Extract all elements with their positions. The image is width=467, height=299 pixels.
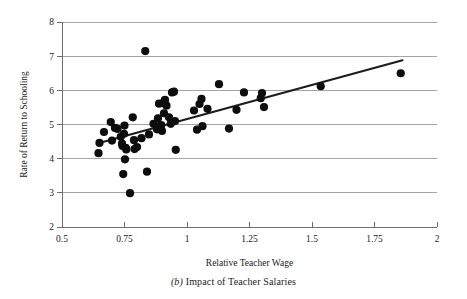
data-point: [120, 130, 128, 138]
data-point: [240, 88, 248, 96]
data-point: [141, 47, 149, 55]
data-point: [126, 189, 134, 197]
y-tick-label: 4: [49, 154, 54, 164]
scatter-plot: 2345678 0.50.7511.251.51.752 Relative Te…: [0, 0, 467, 299]
data-point: [198, 122, 206, 130]
data-point: [113, 125, 121, 133]
y-axis-title: Rate of Return to Schooling: [19, 71, 29, 178]
data-point: [171, 117, 179, 125]
data-point: [172, 146, 180, 154]
data-point: [397, 69, 405, 77]
caption-body: Impact of Teacher Salaries: [186, 276, 296, 287]
data-point: [94, 149, 102, 157]
data-point: [121, 155, 129, 163]
y-tick-label: 8: [49, 17, 54, 27]
data-point: [122, 145, 130, 153]
data-point: [232, 106, 240, 114]
data-point: [258, 89, 266, 97]
data-point: [158, 127, 166, 135]
data-point: [197, 95, 205, 103]
y-tick-label: 6: [49, 86, 54, 96]
data-point: [129, 113, 137, 121]
panel-letter: (b): [171, 276, 183, 287]
data-point: [120, 121, 128, 129]
data-point: [215, 80, 223, 88]
data-point: [190, 106, 198, 114]
y-tick-label: 2: [49, 222, 54, 232]
data-point: [119, 170, 127, 178]
x-tick-label: 0.75: [116, 234, 133, 244]
data-point: [170, 88, 178, 96]
data-point: [108, 136, 116, 144]
data-point: [162, 102, 170, 110]
figure-caption: (b) Impact of Teacher Salaries: [0, 276, 467, 287]
data-point: [95, 139, 103, 147]
x-tick-label: 1: [185, 234, 190, 244]
data-point: [317, 82, 325, 90]
x-tick-label: 2: [435, 234, 440, 244]
x-tick-label: 1.75: [366, 234, 383, 244]
data-point: [225, 125, 233, 133]
data-point: [100, 128, 108, 136]
data-point: [133, 143, 141, 151]
x-axis-ticks: 0.50.7511.251.51.752: [56, 222, 440, 244]
data-point: [143, 168, 151, 176]
data-points: [94, 47, 404, 197]
data-point: [260, 103, 268, 111]
x-tick-label: 1.5: [306, 234, 318, 244]
data-point: [145, 130, 153, 138]
x-axis-title: Relative Teacher Wage: [206, 258, 293, 268]
y-tick-label: 7: [49, 52, 54, 62]
gridlines: [62, 22, 437, 193]
figure-panel-b: 2345678 0.50.7511.251.51.752 Relative Te…: [0, 0, 467, 299]
y-tick-label: 5: [49, 120, 54, 130]
data-point: [203, 105, 211, 113]
regression-line: [98, 60, 402, 143]
data-point: [137, 134, 145, 142]
x-tick-label: 0.5: [56, 234, 68, 244]
x-tick-label: 1.25: [241, 234, 258, 244]
y-axis-ticks: 2345678: [49, 17, 62, 232]
y-tick-label: 3: [49, 188, 54, 198]
